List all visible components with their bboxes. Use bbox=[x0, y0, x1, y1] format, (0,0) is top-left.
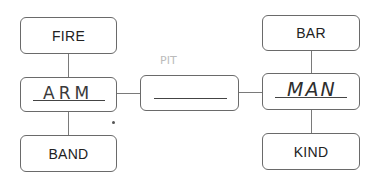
box-man[interactable]: MAN bbox=[262, 73, 360, 110]
box-arm[interactable]: ARM bbox=[20, 77, 117, 112]
connector-middle-man bbox=[239, 92, 262, 93]
connector-arm-band bbox=[68, 112, 69, 135]
answer-line-middle bbox=[154, 98, 227, 99]
stray-mark bbox=[112, 121, 115, 124]
box-band: BAND bbox=[20, 135, 117, 172]
word-fire: FIRE bbox=[52, 28, 85, 44]
answer-line-arm bbox=[33, 100, 105, 101]
connector-bar-man bbox=[311, 51, 312, 73]
connector-fire-arm bbox=[68, 54, 69, 77]
box-middle-answer[interactable] bbox=[140, 75, 239, 111]
connector-arm-middle bbox=[117, 93, 140, 94]
answer-line-man bbox=[275, 97, 347, 98]
faint-mark: PIT bbox=[160, 54, 177, 67]
word-bar: BAR bbox=[296, 25, 326, 41]
connector-man-kind bbox=[311, 110, 312, 133]
box-kind: KIND bbox=[262, 133, 360, 170]
box-fire: FIRE bbox=[20, 17, 117, 54]
word-kind: KIND bbox=[294, 144, 329, 160]
box-bar: BAR bbox=[262, 15, 360, 51]
word-band: BAND bbox=[48, 146, 88, 162]
